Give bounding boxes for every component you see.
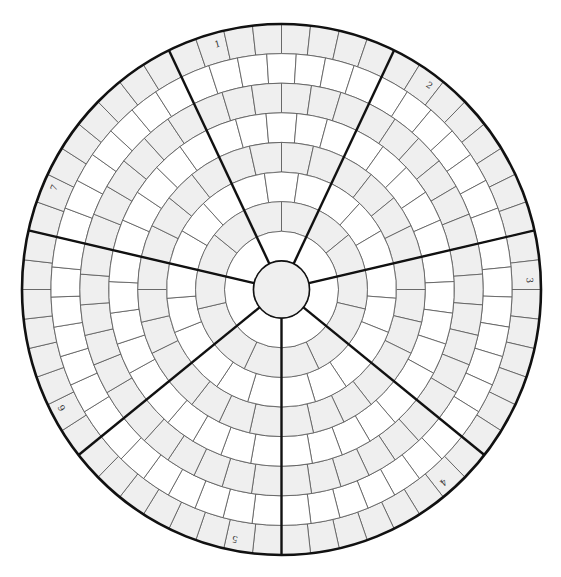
grid-cell — [424, 282, 454, 314]
hub-circle — [253, 261, 309, 318]
grid-cell — [511, 260, 541, 290]
grid-cell — [282, 24, 311, 55]
grid-cell — [264, 172, 298, 203]
grid-cell — [251, 464, 281, 496]
grid-cell — [511, 290, 541, 320]
grid-cell — [454, 274, 483, 305]
grid-cell — [80, 274, 109, 305]
grid-cell — [252, 24, 281, 55]
grid-cell — [482, 267, 512, 297]
grid-cell — [109, 282, 139, 314]
grid-cell — [282, 464, 312, 496]
grid-cell — [252, 494, 281, 525]
grid-cell — [481, 296, 512, 327]
grid-cell — [282, 83, 312, 115]
grid-cell — [51, 267, 81, 297]
grid-cell — [22, 290, 52, 320]
grid-cell — [251, 83, 281, 115]
grid-cell — [282, 524, 311, 555]
grid-cell — [51, 296, 82, 327]
grid-cell — [252, 524, 281, 555]
radial-grid-diagram: 1234567 — [0, 0, 561, 577]
grid-cell — [267, 54, 297, 84]
grid-cell — [282, 434, 313, 466]
grid-cell — [282, 494, 311, 525]
grid-cell — [266, 113, 297, 143]
grid-cell — [22, 260, 52, 290]
sector-label-3: 3 — [525, 277, 535, 283]
grid-cell — [237, 54, 268, 87]
center-circle — [253, 261, 309, 318]
